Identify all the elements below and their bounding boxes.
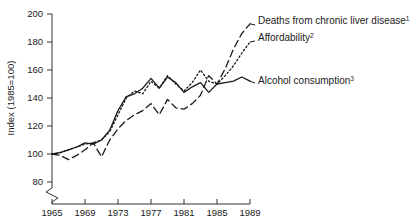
series-paths [52,24,250,160]
y-tick-label: 180 [27,36,43,47]
x-tick-label: 1981 [173,207,194,218]
x-tick-label: 1969 [74,207,95,218]
series-line-dotted [52,42,250,154]
series-labels: Deaths from chronic liver disease1Afford… [258,15,410,87]
series-leader-line [250,81,255,83]
series-label-footnote: 3 [350,75,354,82]
x-tick-labels: 1965196919731977198119851989 [41,207,260,218]
series-label-footnote: 2 [310,32,314,39]
y-tick-labels: 80100120140160180200 [27,8,43,187]
x-tick-marks [52,199,250,204]
series-label: Deaths from chronic liver disease1 [258,15,410,27]
series-leader-line [250,41,255,42]
y-axis-title: Index (1985=100) [5,61,16,136]
x-tick-label: 1989 [239,207,260,218]
series-label-text: Deaths from chronic liver disease [258,15,406,26]
series-label: Affordability2 [258,32,314,44]
y-tick-label: 200 [27,8,43,19]
series-label-text: Alcohol consumption [258,75,350,86]
series-label-text: Affordability [258,32,310,43]
y-tick-label: 120 [27,120,43,131]
y-tick-label: 160 [27,64,43,75]
y-tick-label: 80 [32,176,43,187]
y-tick-marks [47,14,52,182]
series-label: Alcohol consumption3 [258,75,354,87]
series-leader-line [250,24,255,25]
leader-lines [250,24,255,83]
y-tick-label: 100 [27,148,43,159]
series-line-solid [52,77,250,154]
x-tick-label: 1973 [107,207,128,218]
chart-page: 80100120140160180200 1965196919731977198… [0,0,416,221]
series-label-footnote: 1 [406,15,410,22]
x-tick-label: 1985 [206,207,227,218]
x-tick-label: 1977 [140,207,161,218]
x-tick-label: 1965 [41,207,62,218]
line-chart: 80100120140160180200 1965196919731977198… [0,0,416,221]
y-tick-label: 140 [27,92,43,103]
series-line-dashed [52,24,250,160]
